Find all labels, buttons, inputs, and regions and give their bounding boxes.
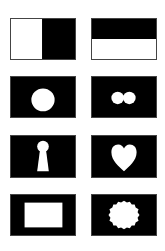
- splat-icon: [92, 195, 156, 235]
- card-double-circle: two-small-white-circles-on-black: [91, 76, 157, 118]
- heart-icon: [92, 136, 156, 177]
- card-single-circle: white-circle-on-black: [10, 76, 76, 118]
- split-vertical-icon: [11, 19, 75, 59]
- card-split-vertical: left-half-white-right-half-black: [10, 18, 76, 60]
- card-heart: white-heart-on-black: [91, 135, 157, 178]
- card-splat: white-irregular-blob-on-black: [91, 194, 157, 236]
- circle-icon: [11, 77, 75, 117]
- card-split-horizontal: top-half-black-bottom-half-white: [91, 18, 157, 60]
- split-horizontal-icon: [92, 19, 156, 59]
- card-rectangle: white-rectangle-on-black: [10, 194, 76, 236]
- card-keyhole: white-keyhole-on-black: [10, 135, 76, 178]
- double-circle-icon: [92, 77, 156, 117]
- keyhole-icon: [11, 136, 75, 177]
- rectangle-icon: [11, 195, 75, 235]
